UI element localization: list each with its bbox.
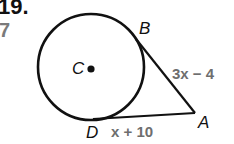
problem-number: 19. <box>0 0 29 18</box>
label-point-d: D <box>86 124 98 141</box>
label-segment-ad: x + 10 <box>111 124 153 139</box>
label-point-a: A <box>198 114 209 131</box>
label-segment-ab: 3x − 4 <box>172 66 214 81</box>
center-point <box>87 65 94 72</box>
label-center-c: C <box>72 60 84 77</box>
label-point-b: B <box>139 20 150 37</box>
side-number: 7 <box>0 20 10 40</box>
